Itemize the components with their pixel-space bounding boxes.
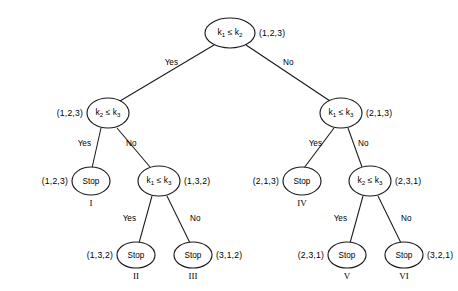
node-permutation-label: (2,3,1) [298, 250, 324, 260]
tree-node-RR-decision[interactable]: k2 ≤ k3(2,3,1) [349, 166, 421, 196]
tree-node-LRL-stop[interactable]: Stop(1,3,2)II [87, 242, 155, 281]
node-permutation-label: (1,3,2) [184, 176, 210, 186]
node-stop-label: Stop [294, 177, 311, 186]
tree-canvas: YesNoYesNoYesNoYesNoYesNo k1 ≤ k2(1,2,3)… [0, 0, 458, 291]
node-permutation-label: (2,1,3) [366, 108, 392, 118]
tree-edge-RR-to-RRR [378, 196, 401, 243]
edge-label-no-LR: No [190, 214, 201, 223]
node-stop-label: Stop [185, 251, 202, 260]
edge-label-yes-RR: Yes [334, 214, 347, 223]
node-roman-numeral: IV [297, 198, 307, 208]
tree-node-RL-stop[interactable]: Stop(2,1,3)IV [253, 167, 321, 208]
edge-label-yes-L: Yes [78, 139, 91, 148]
node-stop-label: Stop [83, 177, 100, 186]
tree-edge-RR-to-RRL [350, 196, 363, 243]
edges-layer: YesNoYesNoYesNoYesNoYesNo [78, 45, 412, 243]
node-stop-label: Stop [396, 251, 413, 260]
node-permutation-label: (3,2,1) [427, 250, 453, 260]
node-roman-numeral: VI [399, 271, 409, 281]
edge-label-no-root: No [283, 58, 294, 67]
node-permutation-label: (1,3,2) [87, 250, 113, 260]
tree-node-RRL-stop[interactable]: Stop(2,3,1)V [298, 242, 366, 281]
node-permutation-label: (1,2,3) [57, 108, 83, 118]
edge-label-yes-R: Yes [309, 139, 322, 148]
tree-edge-LR-to-LRR [167, 196, 190, 243]
node-roman-numeral: I [90, 198, 93, 208]
nodes-layer: k1 ≤ k2(1,2,3)k2 ≤ k3(1,2,3)k1 ≤ k3(2,1,… [42, 18, 454, 281]
node-permutation-label: (1,2,3) [42, 176, 68, 186]
edge-label-yes-LR: Yes [123, 214, 136, 223]
tree-node-LL-stop[interactable]: Stop(1,2,3)I [42, 167, 110, 208]
tree-edge-root-to-L [120, 45, 214, 101]
node-permutation-label: (2,1,3) [253, 176, 279, 186]
tree-node-RRR-stop[interactable]: Stop(3,2,1)VI [385, 242, 453, 281]
decision-tree-diagram: YesNoYesNoYesNoYesNoYesNo k1 ≤ k2(1,2,3)… [0, 0, 458, 291]
node-stop-label: Stop [128, 251, 145, 260]
node-roman-numeral: II [133, 271, 139, 281]
node-roman-numeral: III [189, 271, 198, 281]
edge-label-yes-root: Yes [165, 58, 178, 67]
node-permutation-label: (3,1,2) [216, 250, 242, 260]
tree-edge-root-to-R [246, 45, 330, 101]
tree-edge-L-to-LL [92, 128, 101, 168]
node-stop-label: Stop [339, 251, 356, 260]
tree-node-R-decision[interactable]: k1 ≤ k3(2,1,3) [320, 98, 392, 128]
node-permutation-label: (1,2,3) [259, 28, 285, 38]
node-roman-numeral: V [344, 271, 351, 281]
node-permutation-label: (2,3,1) [395, 176, 421, 186]
tree-node-root-decision[interactable]: k1 ≤ k2(1,2,3) [205, 18, 285, 48]
tree-node-LR-decision[interactable]: k1 ≤ k3(1,3,2) [138, 166, 210, 196]
tree-node-L-decision[interactable]: k2 ≤ k3(1,2,3) [57, 98, 129, 128]
edge-label-no-R: No [358, 139, 369, 148]
edge-label-no-L: No [126, 139, 137, 148]
tree-edge-LR-to-LRL [139, 196, 152, 243]
edge-label-no-RR: No [401, 214, 412, 223]
tree-node-LRR-stop[interactable]: Stop(3,1,2)III [174, 242, 242, 281]
